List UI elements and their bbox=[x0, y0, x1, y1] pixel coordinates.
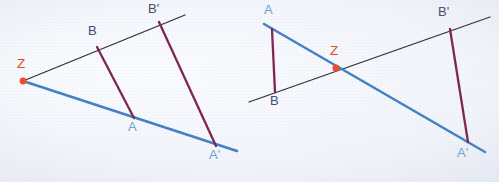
right-label-B: B bbox=[270, 93, 279, 108]
left-label-Z: Z bbox=[17, 56, 25, 71]
right-segment-AB bbox=[272, 29, 275, 92]
left-label-A-prime: A' bbox=[209, 147, 221, 162]
left-center-dot-Z bbox=[20, 78, 27, 85]
left-label-A: A bbox=[128, 119, 137, 134]
right-label-Z: Z bbox=[330, 43, 338, 58]
diagram-page: Z B B' A A' A Z B B' A' bbox=[0, 0, 499, 182]
left-label-B-prime: B' bbox=[148, 1, 160, 16]
right-diagram bbox=[249, 17, 490, 152]
right-label-B-prime: B' bbox=[438, 4, 450, 19]
geometry-figure bbox=[0, 0, 499, 182]
right-label-A: A bbox=[264, 2, 273, 17]
right-label-A-prime: A' bbox=[457, 145, 469, 160]
right-segment-BpAp bbox=[450, 29, 468, 142]
left-ray-blue bbox=[23, 81, 237, 151]
right-center-dot-Z bbox=[332, 64, 339, 71]
left-label-B: B bbox=[88, 23, 97, 38]
